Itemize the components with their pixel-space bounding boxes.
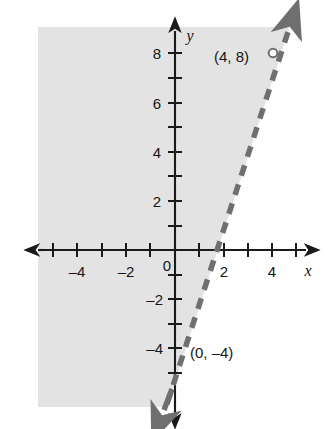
x-axis-label: x [303,262,311,279]
y-tick-label-6: 6 [153,95,161,112]
open-circle-point-4-8 [269,49,278,58]
x-tick-label-2: 2 [220,263,228,280]
coordinate-plane-svg: –4 –2 2 4 0 8 6 4 2 –2 –4 y x (4, 8) (0,… [0,0,335,429]
origin-label: 0 [163,257,171,274]
shaded-region [38,27,289,407]
point-label-0--4: (0, –4) [190,344,233,361]
y-tick-label-8: 8 [153,45,161,62]
y-axis-label: y [184,27,194,45]
y-tick-label--4: –4 [146,340,163,357]
y-tick-label--2: –2 [146,291,163,308]
x-tick-label--4: –4 [69,263,86,280]
x-tick-label-4: 4 [268,263,276,280]
graph-figure: –4 –2 2 4 0 8 6 4 2 –2 –4 y x (4, 8) (0,… [0,0,335,429]
y-tick-label-2: 2 [153,193,161,210]
x-tick-label--2: –2 [118,263,135,280]
point-label-4-8: (4, 8) [214,48,249,65]
y-tick-label-4: 4 [153,144,161,161]
